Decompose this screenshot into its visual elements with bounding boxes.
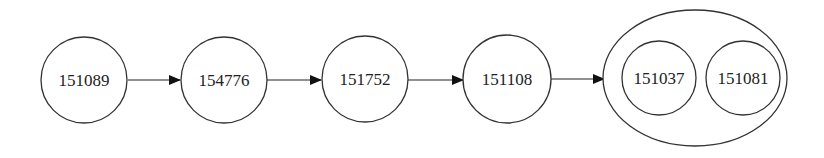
group-node: 151037 151081 <box>603 10 787 146</box>
node-151037: 151037 <box>622 41 696 115</box>
node-label: 151089 <box>59 71 110 90</box>
node-151108: 151108 <box>463 35 551 123</box>
node-151081: 151081 <box>706 41 780 115</box>
node-151752: 151752 <box>322 36 408 122</box>
node-label: 151108 <box>482 70 532 89</box>
node-154776: 154776 <box>181 37 267 123</box>
node-label: 154776 <box>199 71 250 90</box>
node-151089: 151089 <box>41 37 127 123</box>
node-label: 151037 <box>634 69 686 88</box>
node-label: 151081 <box>718 69 769 88</box>
node-label: 151752 <box>340 70 391 89</box>
flow-diagram: 151089 154776 151752 151108 151037 15108… <box>0 0 824 158</box>
